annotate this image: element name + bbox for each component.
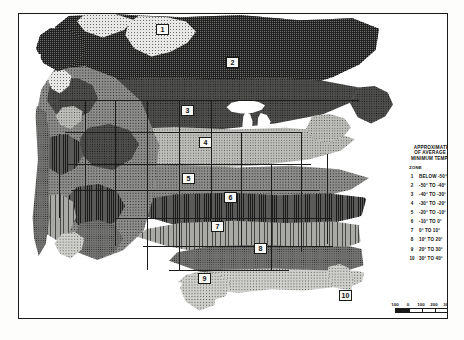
scale-bar-group: 1000100200300400 MILES bbox=[395, 302, 448, 319]
scale-bar bbox=[395, 308, 448, 313]
legend-row-zone-5: 5-20° TO -10° bbox=[407, 208, 448, 217]
map-page: 1 2 3 4 5 6 7 8 9 10 APPROXIMATE RANGE O… bbox=[0, 0, 464, 340]
legend-zone-range: -20° TO -10° bbox=[417, 210, 448, 215]
zone-callout-10: 10 bbox=[339, 290, 352, 301]
legend-zone-range: -50° TO -40° bbox=[417, 183, 448, 188]
zone-callout-2: 2 bbox=[226, 57, 239, 68]
zone-callout-9: 9 bbox=[198, 273, 211, 284]
legend-panel: APPROXIMATE RANGE OF AVERAGE ANNUAL MINI… bbox=[407, 145, 448, 275]
legend-zone-number: 9 bbox=[407, 247, 417, 252]
legend-zone-number: 4 bbox=[407, 201, 417, 206]
scale-tick-label-2: 100 bbox=[417, 302, 424, 307]
legend-rows: 1BELOW -50°F2-50° TO -40°3-40° TO -30°4-… bbox=[407, 172, 448, 263]
scale-tick-label-3: 200 bbox=[430, 302, 437, 307]
zone-callout-1: 1 bbox=[156, 24, 169, 35]
legend-zone-number: 2 bbox=[407, 183, 417, 188]
legend-row-zone-8: 810° TO 20° bbox=[407, 235, 448, 244]
legend-zone-range: 10° TO 20° bbox=[417, 237, 448, 242]
legend-row-zone-1: 1BELOW -50°F bbox=[407, 172, 448, 181]
legend-title: APPROXIMATE RANGE OF AVERAGE ANNUAL MINI… bbox=[409, 145, 448, 161]
scale-unit-label: MILES bbox=[395, 314, 448, 319]
legend-title-line-3: MINIMUM TEMPERATURE bbox=[409, 156, 448, 161]
legend-row-zone-2: 2-50° TO -40° bbox=[407, 181, 448, 190]
scale-bar-filled-segment bbox=[396, 309, 409, 312]
legend-zone-number: 1 bbox=[407, 174, 417, 179]
legend-zone-number: 8 bbox=[407, 237, 417, 242]
zone-callout-5: 5 bbox=[182, 173, 195, 184]
legend-zone-number: 10 bbox=[407, 256, 417, 261]
legend-column-header: ZONE bbox=[409, 165, 448, 170]
scale-tick-label-0: 100 bbox=[391, 302, 398, 307]
zone-callout-3: 3 bbox=[181, 105, 194, 116]
zone-callout-6: 6 bbox=[224, 192, 237, 203]
legend-zone-number: 7 bbox=[407, 228, 417, 233]
scale-tick-2 bbox=[435, 308, 436, 311]
zone-callout-7: 7 bbox=[211, 221, 224, 232]
map-frame: 1 2 3 4 5 6 7 8 9 10 APPROXIMATE RANGE O… bbox=[18, 13, 448, 319]
zone-callout-4: 4 bbox=[199, 137, 212, 148]
scale-tick-label-1: 0 bbox=[407, 302, 409, 307]
legend-zone-range: 20° TO 30° bbox=[417, 247, 448, 252]
scale-tick-0 bbox=[409, 308, 410, 311]
legend-zone-range: BELOW -50°F bbox=[417, 174, 448, 179]
legend-row-zone-3: 3-40° TO -30° bbox=[407, 190, 448, 199]
zone-callout-8: 8 bbox=[254, 243, 267, 254]
legend-zone-number: 5 bbox=[407, 210, 417, 215]
legend-zone-number: 6 bbox=[407, 219, 417, 224]
legend-row-zone-6: 6-10° TO 0° bbox=[407, 217, 448, 226]
legend-zone-range: 30° TO 40° bbox=[417, 256, 448, 261]
legend-zone-range: -30° TO -20° bbox=[417, 201, 448, 206]
legend-row-zone-7: 70° TO 10° bbox=[407, 226, 448, 235]
legend-row-zone-10: 1030° TO 40° bbox=[407, 254, 448, 263]
legend-zone-number: 3 bbox=[407, 192, 417, 197]
legend-row-zone-9: 920° TO 30° bbox=[407, 244, 448, 253]
legend-zone-range: 0° TO 10° bbox=[417, 228, 448, 233]
legend-zone-range: -40° TO -30° bbox=[417, 192, 448, 197]
legend-row-zone-4: 4-30° TO -20° bbox=[407, 199, 448, 208]
scale-tick-label-4: 300 bbox=[443, 302, 448, 307]
scale-tick-1 bbox=[422, 308, 423, 311]
legend-zone-range: -10° TO 0° bbox=[417, 219, 448, 224]
